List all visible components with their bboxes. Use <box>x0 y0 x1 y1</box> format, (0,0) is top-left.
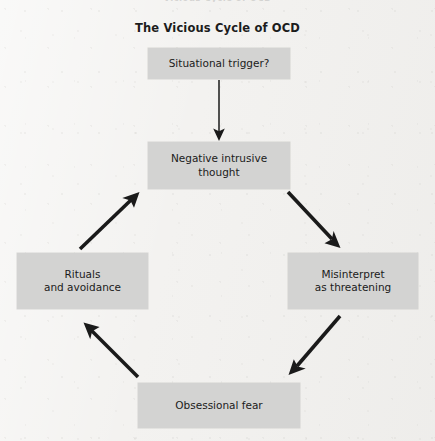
node-label-line: Situational trigger? <box>169 57 270 71</box>
node-label-line: thought <box>171 166 267 180</box>
diagram-title: The Vicious Cycle of OCD <box>0 21 435 35</box>
node-situational-trigger[interactable]: Situational trigger? <box>148 48 290 79</box>
node-label-line: and avoidance <box>44 281 121 295</box>
arrow-rituals-to-thought <box>80 192 140 249</box>
diagram-page: Vicious Cycle of OCD The Vicious Cycle o… <box>0 0 435 441</box>
node-label-line: Obsessional fear <box>175 399 262 413</box>
node-rituals-and-avoidance[interactable]: Rituals and avoidance <box>17 253 148 309</box>
node-label-line: Negative intrusive <box>171 152 267 166</box>
node-label-line: Misinterpret <box>315 268 391 282</box>
node-misinterpret-as-threatening[interactable]: Misinterpret as threatening <box>288 253 418 309</box>
arrow-misinterpret-to-fear <box>289 316 341 375</box>
arrow-fear-to-rituals <box>84 323 139 378</box>
arrow-thought-to-misinterpret <box>288 192 341 248</box>
node-label-line: as threatening <box>315 281 391 295</box>
node-obsessional-fear[interactable]: Obsessional fear <box>138 383 300 428</box>
node-negative-intrusive-thought[interactable]: Negative intrusive thought <box>148 142 290 189</box>
clipped-header-text: Vicious Cycle of OCD <box>0 0 435 2</box>
node-label-line: Rituals <box>44 268 121 282</box>
arrow-trigger-to-thought <box>213 80 225 141</box>
